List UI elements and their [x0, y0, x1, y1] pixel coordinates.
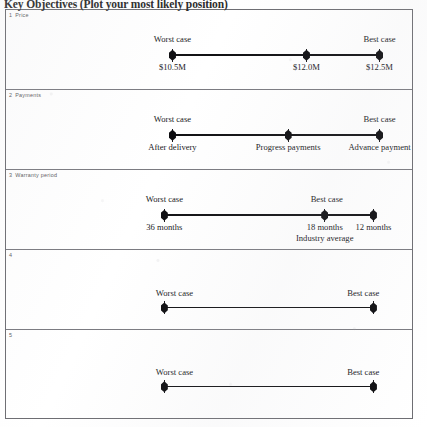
- objective-panel[interactable]: 5Worst caseBest case: [6, 330, 412, 420]
- scale-marker[interactable]: [161, 381, 168, 392]
- scale-line: [172, 134, 379, 135]
- scale-value-label: $12.0M: [293, 62, 320, 72]
- scale-sub-label: Industry average: [296, 233, 354, 243]
- scale-endpoint-label: Worst case: [156, 288, 193, 298]
- scale-line: [164, 307, 373, 308]
- scale-marker[interactable]: [376, 130, 383, 141]
- scale-marker[interactable]: [370, 302, 377, 313]
- scale-marker[interactable]: [303, 50, 310, 61]
- scale-endpoint-label: Best case: [363, 114, 395, 124]
- objectives-worksheet: 1PriceWorst caseBest case$10.5M$12.0M$12…: [5, 9, 413, 419]
- scale-line: [164, 214, 373, 215]
- scale-marker[interactable]: [169, 50, 176, 61]
- scale-marker[interactable]: [376, 50, 383, 61]
- objective-scale[interactable]: Worst caseBest case$10.5M$12.0M$12.5M: [6, 10, 412, 89]
- scale-line: [172, 54, 379, 55]
- scale-value-label: 12 months: [355, 222, 391, 232]
- objective-scale[interactable]: Worst caseBest case: [6, 330, 412, 420]
- scale-marker[interactable]: [169, 130, 176, 141]
- scale-endpoint-label: Worst case: [146, 194, 183, 204]
- scale-line: [164, 386, 373, 387]
- scale-value-label: 18 months: [307, 222, 343, 232]
- scale-marker[interactable]: [285, 130, 292, 141]
- page-title: Key Objectives (Plot your most likely po…: [4, 0, 424, 11]
- objective-scale[interactable]: Worst caseBest caseAfter deliveryProgres…: [6, 90, 412, 169]
- scale-marker[interactable]: [370, 210, 377, 221]
- scale-value-label: Progress payments: [256, 142, 321, 152]
- scale-marker[interactable]: [161, 302, 168, 313]
- scale-marker[interactable]: [161, 210, 168, 221]
- objective-panel[interactable]: 1PriceWorst caseBest case$10.5M$12.0M$12…: [6, 10, 412, 90]
- scale-marker[interactable]: [370, 381, 377, 392]
- objective-panel[interactable]: 4Worst caseBest case: [6, 250, 412, 330]
- objective-scale[interactable]: Worst caseBest case: [6, 250, 412, 329]
- scale-endpoint-label: Worst case: [156, 367, 193, 377]
- scale-value-label: After delivery: [148, 142, 196, 152]
- objective-scale[interactable]: Worst caseBest case36 months18 monthsInd…: [6, 170, 412, 249]
- scale-value-label: Advance payment: [348, 142, 410, 152]
- scale-value-label: 36 months: [146, 222, 182, 232]
- scale-endpoint-label: Best case: [311, 194, 343, 204]
- scale-endpoint-label: Best case: [347, 288, 379, 298]
- objective-panel[interactable]: 3Warranty periodWorst caseBest case36 mo…: [6, 170, 412, 250]
- scale-endpoint-label: Best case: [347, 367, 379, 377]
- scale-endpoint-label: Best case: [363, 34, 395, 44]
- objective-panel[interactable]: 2PaymentsWorst caseBest caseAfter delive…: [6, 90, 412, 170]
- scale-value-label: $12.5M: [366, 62, 393, 72]
- scale-endpoint-label: Worst case: [154, 34, 191, 44]
- scale-endpoint-label: Worst case: [154, 114, 191, 124]
- scale-value-label: $10.5M: [159, 62, 186, 72]
- scale-marker[interactable]: [321, 210, 328, 221]
